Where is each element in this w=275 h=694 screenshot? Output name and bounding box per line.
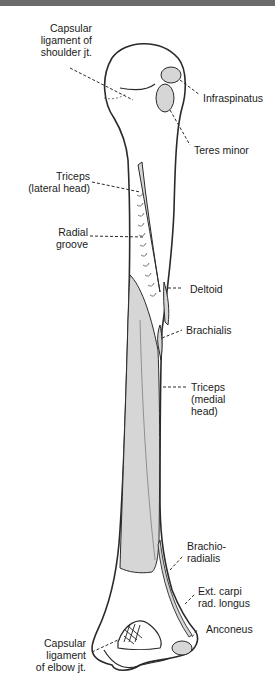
label-capsular-shoulder: Capsular ligament of shoulder jt. (14, 22, 92, 58)
label-deltoid: Deltoid (190, 283, 223, 295)
teres-minor-attachment (156, 84, 174, 112)
label-capsular-elbow: Capsular ligament of elbow jt. (20, 637, 86, 673)
label-triceps-medial: Triceps (medial head) (191, 381, 225, 417)
label-triceps-lateral: Triceps (lateral head) (10, 170, 90, 194)
infraspinatus-attachment (161, 67, 181, 83)
label-teres-minor: Teres minor (194, 144, 249, 156)
label-infraspinatus: Infraspinatus (203, 92, 263, 104)
label-brachioradialis: Brachio- radialis (187, 540, 226, 564)
label-brachialis: Brachialis (186, 324, 232, 336)
label-anconeus: Anconeus (206, 623, 253, 635)
anconeus-attachment (172, 641, 192, 655)
label-radial-groove: Radial groove (30, 226, 88, 250)
label-ext-carpi: Ext. carpi rad. longus (198, 585, 250, 609)
